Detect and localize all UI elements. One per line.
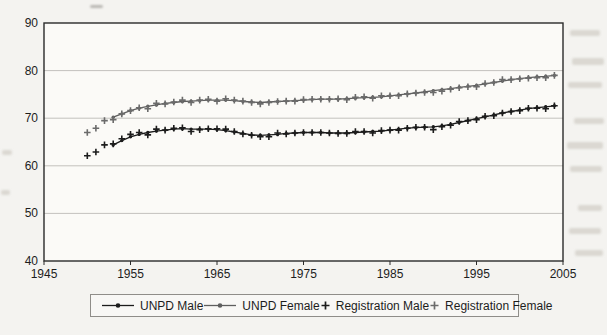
svg-text:70: 70 xyxy=(25,111,39,125)
life-expectancy-chart: 1945195519651975198519952005405060708090 xyxy=(0,0,607,335)
svg-text:90: 90 xyxy=(25,16,39,30)
scanned-chart-page: 1945195519651975198519952005405060708090… xyxy=(0,0,607,335)
legend-label-registration-female: Registration Female xyxy=(445,299,552,313)
chart-legend: UNPD Male UNPD Female Registration Male … xyxy=(90,294,519,317)
scan-artifact xyxy=(568,82,602,88)
plus-marker-icon xyxy=(320,300,331,311)
scan-artifact xyxy=(575,250,603,256)
legend-item-registration-male: Registration Male xyxy=(320,299,429,313)
svg-text:1995: 1995 xyxy=(463,267,490,281)
legend-label-unpd-male: UNPD Male xyxy=(140,299,203,313)
svg-text:2005: 2005 xyxy=(550,267,577,281)
svg-text:50: 50 xyxy=(25,206,39,220)
scan-artifact xyxy=(574,118,604,124)
svg-text:40: 40 xyxy=(25,254,39,268)
scan-artifact xyxy=(1,190,10,195)
scan-artifact xyxy=(570,30,600,36)
line-dot-marker-icon xyxy=(203,300,237,311)
svg-text:60: 60 xyxy=(25,159,39,173)
svg-text:1945: 1945 xyxy=(31,267,58,281)
legend-item-unpd-female: UNPD Female xyxy=(203,299,319,313)
plus-marker-icon xyxy=(429,300,440,311)
scan-artifact xyxy=(90,5,103,8)
scan-artifact xyxy=(570,166,602,172)
svg-text:1975: 1975 xyxy=(290,267,317,281)
scan-artifact xyxy=(569,228,601,234)
legend-item-unpd-male: UNPD Male xyxy=(101,299,203,313)
scan-artifact xyxy=(2,150,12,155)
legend-label-unpd-female: UNPD Female xyxy=(242,299,319,313)
scan-artifact xyxy=(567,142,603,149)
legend-label-registration-male: Registration Male xyxy=(336,299,429,313)
legend-item-registration-female: Registration Female xyxy=(429,299,552,313)
svg-text:1955: 1955 xyxy=(117,267,144,281)
svg-text:80: 80 xyxy=(25,64,39,78)
scan-artifact xyxy=(572,58,604,65)
line-dot-marker-icon xyxy=(101,300,135,311)
svg-text:1985: 1985 xyxy=(377,267,404,281)
scan-artifact xyxy=(578,205,602,211)
svg-text:1965: 1965 xyxy=(204,267,231,281)
